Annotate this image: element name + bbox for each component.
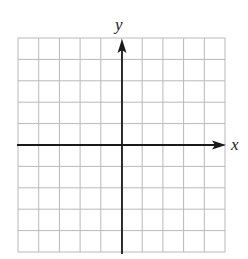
y-axis-label: y: [113, 15, 123, 34]
coordinate-plane: x y: [0, 0, 248, 259]
x-axis-label: x: [230, 135, 239, 154]
